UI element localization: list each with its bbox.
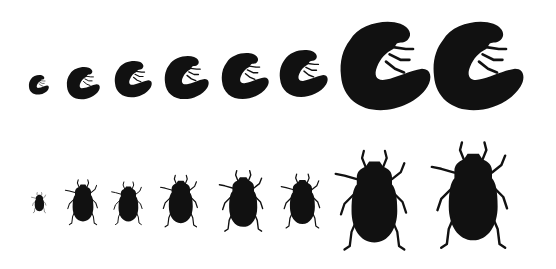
- beetle-size-illustration: [0, 0, 556, 269]
- grub-6: [280, 50, 328, 97]
- larvae-row: [29, 22, 524, 110]
- grub-7: [341, 22, 431, 110]
- grub-2: [67, 67, 100, 99]
- beetle-1: [31, 193, 45, 213]
- grub-8: [434, 22, 524, 110]
- beetle-4: [161, 175, 198, 227]
- beetle-5: [219, 171, 262, 231]
- beetle-8: [432, 142, 507, 247]
- grub-1: [29, 75, 49, 95]
- grub-5: [222, 53, 269, 99]
- grub-4: [165, 56, 209, 99]
- beetle-7: [336, 151, 406, 250]
- beetle-3: [112, 182, 142, 225]
- adults-row: [31, 142, 507, 249]
- beetle-6: [281, 174, 319, 228]
- grub-3: [115, 61, 152, 97]
- beetle-2: [65, 180, 97, 225]
